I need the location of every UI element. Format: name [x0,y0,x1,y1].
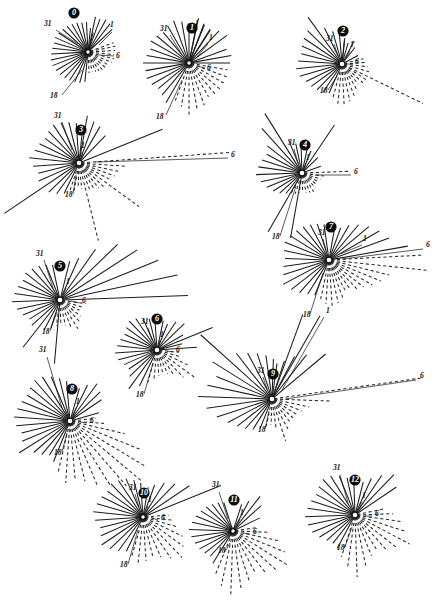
ray-11 [357,516,398,548]
tick-label-18: 18 [337,543,345,552]
ray-12 [356,517,385,550]
figure-canvas: 3116180311618131161823116183311618431161… [0,0,438,603]
panel-12: 31161812 [0,0,438,603]
ray-16 [355,517,357,577]
panel-12-rays [305,475,410,577]
ray-13 [356,517,376,549]
ray-29 [319,487,354,514]
tick-label-1: 1 [362,491,366,500]
tick-leader-31 [340,475,348,503]
panel-12-hub [352,512,358,518]
ray-6 [357,509,384,515]
tick-leader-18 [345,527,352,547]
ray-9 [357,516,406,532]
tick-label-6: 6 [375,509,379,518]
panel-12-badge: 12 [349,474,360,485]
tick-label-31: 31 [332,463,341,472]
badge-label: 12 [351,475,359,484]
ray-26 [307,508,352,514]
ray-17 [347,517,354,568]
